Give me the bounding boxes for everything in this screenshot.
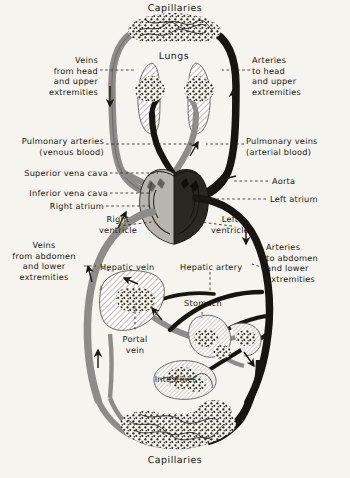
label-hepatic-artery: Hepatic artery — [180, 262, 258, 273]
circulatory-system-figure: Capillaries Lungs Veins from head and up… — [0, 0, 350, 478]
label-right-atrium: Right atrium — [10, 201, 104, 212]
label-hepatic-vein: Hepatic vein — [100, 262, 172, 273]
label-veins-from-abdomen: Veins from abdomen and lower extremities — [2, 240, 86, 282]
capillary-bed-top — [128, 13, 221, 42]
label-capillaries-bottom: Capillaries — [123, 456, 227, 467]
label-veins-from-head: Veins from head and upper extremities — [8, 55, 98, 97]
label-pulmonary-veins: Pulmonary veins (arterial blood) — [246, 136, 348, 157]
label-left-ventricle: Left ventricle — [202, 214, 258, 235]
label-arteries-to-head: Arteries to head and upper extremities — [252, 55, 344, 97]
label-intestines: Intestines — [134, 374, 218, 385]
label-right-ventricle: Right ventricle — [88, 214, 148, 235]
label-left-atrium: Left atrium — [270, 194, 346, 205]
label-inferior-vena-cava: Inferior vena cava — [4, 188, 108, 199]
capillary-bed-bottom — [120, 400, 236, 449]
label-stomach: Stomach — [176, 298, 230, 309]
label-capillaries-top: Capillaries — [123, 4, 227, 15]
label-portal-vein: Portal vein — [108, 334, 162, 355]
heart-organ — [140, 170, 208, 244]
label-lungs: Lungs — [146, 52, 202, 63]
label-arteries-to-abdomen: Arteries to abdomen and lower extremitie… — [266, 242, 350, 284]
label-superior-vena-cava: Superior vena cava — [4, 168, 108, 179]
label-pulmonary-arteries: Pulmonary arteries (venous blood) — [2, 136, 104, 157]
label-aorta: Aorta — [272, 176, 332, 187]
